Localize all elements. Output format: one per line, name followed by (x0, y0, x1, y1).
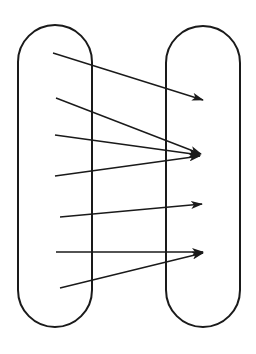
mapping-arrow-1 (53, 53, 203, 100)
arrows (53, 53, 203, 288)
set-oval-codomain (166, 26, 240, 327)
mapping-arrow-4 (55, 156, 200, 176)
mapping-arrow-5 (60, 204, 202, 217)
mapping-arrow-7 (60, 253, 203, 288)
mapping-diagram (0, 0, 256, 354)
sets (18, 25, 240, 327)
